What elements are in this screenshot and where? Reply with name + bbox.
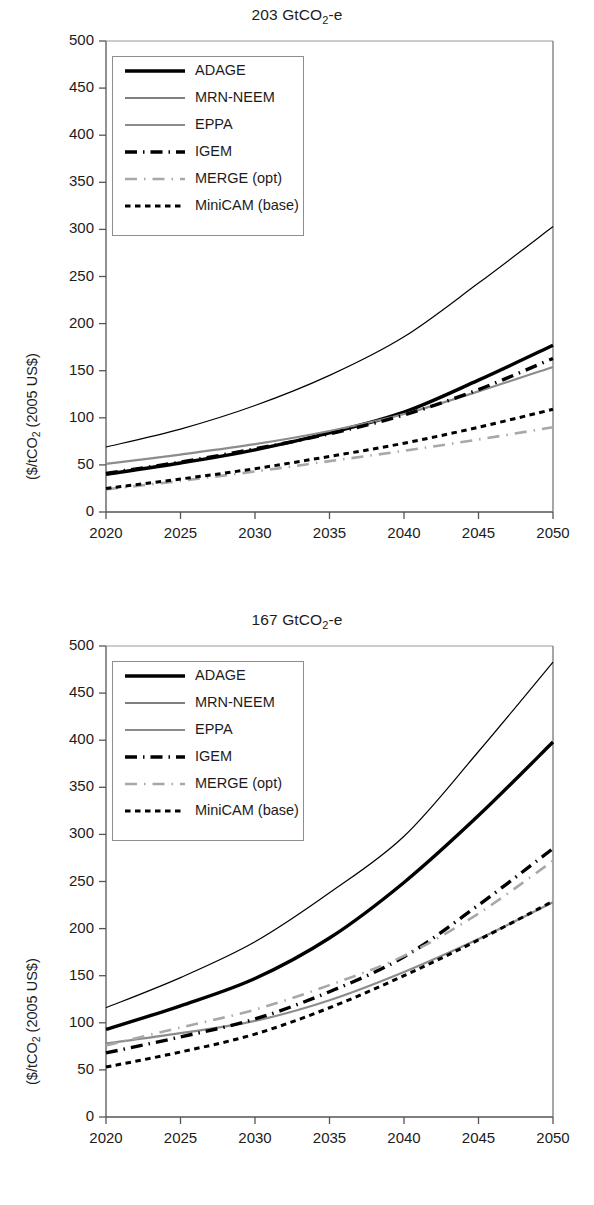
legend-label: ADAGE xyxy=(195,668,246,683)
y-tick-label: 400 xyxy=(38,125,94,142)
y-tick-label: 0 xyxy=(38,502,94,519)
y-tick-label: 200 xyxy=(38,314,94,331)
legend-label: MiniCAM (base) xyxy=(195,198,299,213)
x-tick-label: 2030 xyxy=(225,1129,285,1146)
x-tick-label: 2030 xyxy=(225,524,285,541)
y-tick-label: 350 xyxy=(38,172,94,189)
x-tick-label: 2025 xyxy=(151,1129,211,1146)
legend-label: MERGE (opt) xyxy=(195,776,282,791)
y-tick-label: 450 xyxy=(38,683,94,700)
x-tick-label: 2025 xyxy=(151,524,211,541)
series-line-igem xyxy=(106,849,553,1053)
legend-label: MERGE (opt) xyxy=(195,171,282,186)
legend-167: ADAGEMRN-NEEMEPPAIGEMMERGE (opt)MiniCAM … xyxy=(112,661,304,841)
legend-swatch-icon xyxy=(124,667,186,685)
legend-item-igem[interactable]: IGEM xyxy=(113,743,303,770)
legend-label: ADAGE xyxy=(195,63,246,78)
legend-swatch-icon xyxy=(124,170,186,188)
series-line-merge-opt xyxy=(106,427,553,489)
y-tick-label: 50 xyxy=(38,1060,94,1077)
chart-panel-167: 167 GtCO2-e ($/tCO2 (2005 US$) 050100150… xyxy=(0,605,594,1205)
x-tick-label: 2045 xyxy=(449,524,509,541)
legend-item-eppa[interactable]: EPPA xyxy=(113,111,303,138)
y-tick-label: 500 xyxy=(38,636,94,653)
legend-swatch-icon xyxy=(124,775,186,793)
legend-swatch-icon xyxy=(124,721,186,739)
series-line-merge-opt xyxy=(106,861,553,1046)
legend-swatch-icon xyxy=(124,143,186,161)
legend-label: MiniCAM (base) xyxy=(195,803,299,818)
legend-swatch-icon xyxy=(124,197,186,215)
x-tick-label: 2050 xyxy=(523,524,583,541)
y-tick-label: 150 xyxy=(38,361,94,378)
legend-label: EPPA xyxy=(195,722,233,737)
y-tick-label: 100 xyxy=(38,408,94,425)
legend-item-merge-opt[interactable]: MERGE (opt) xyxy=(113,165,303,192)
legend-swatch-icon xyxy=(124,89,186,107)
x-tick-label: 2040 xyxy=(374,524,434,541)
legend-label: MRN-NEEM xyxy=(195,90,275,105)
y-tick-label: 100 xyxy=(38,1013,94,1030)
legend-item-adage[interactable]: ADAGE xyxy=(113,662,303,689)
x-tick-label: 2050 xyxy=(523,1129,583,1146)
legend-item-merge-opt[interactable]: MERGE (opt) xyxy=(113,770,303,797)
legend-swatch-icon xyxy=(124,694,186,712)
x-tick-label: 2040 xyxy=(374,1129,434,1146)
legend-swatch-icon xyxy=(124,116,186,134)
y-tick-label: 400 xyxy=(38,730,94,747)
series-line-eppa xyxy=(106,367,553,464)
y-tick-label: 500 xyxy=(38,31,94,48)
legend-label: MRN-NEEM xyxy=(195,695,275,710)
legend-item-mrn-neem[interactable]: MRN-NEEM xyxy=(113,84,303,111)
legend-item-eppa[interactable]: EPPA xyxy=(113,716,303,743)
series-line-minicam-base xyxy=(106,409,553,488)
y-tick-label: 250 xyxy=(38,267,94,284)
y-tick-label: 200 xyxy=(38,919,94,936)
y-tick-label: 150 xyxy=(38,966,94,983)
y-tick-label: 300 xyxy=(38,219,94,236)
legend-item-adage[interactable]: ADAGE xyxy=(113,57,303,84)
x-tick-label: 2020 xyxy=(76,1129,136,1146)
legend-label: IGEM xyxy=(195,144,232,159)
legend-item-minicam-base[interactable]: MiniCAM (base) xyxy=(113,192,303,219)
x-tick-label: 2035 xyxy=(300,1129,360,1146)
y-tick-label: 350 xyxy=(38,777,94,794)
legend-swatch-icon xyxy=(124,802,186,820)
y-tick-label: 250 xyxy=(38,872,94,889)
legend-203: ADAGEMRN-NEEMEPPAIGEMMERGE (opt)MiniCAM … xyxy=(112,56,304,236)
legend-label: IGEM xyxy=(195,749,232,764)
series-line-mrn-neem xyxy=(106,227,553,447)
y-tick-label: 450 xyxy=(38,78,94,95)
legend-item-minicam-base[interactable]: MiniCAM (base) xyxy=(113,797,303,824)
legend-swatch-icon xyxy=(124,748,186,766)
legend-label: EPPA xyxy=(195,117,233,132)
legend-item-mrn-neem[interactable]: MRN-NEEM xyxy=(113,689,303,716)
y-tick-label: 50 xyxy=(38,455,94,472)
x-tick-label: 2020 xyxy=(76,524,136,541)
y-tick-label: 300 xyxy=(38,824,94,841)
chart-panel-203: 203 GtCO2-e ($/tCO2 (2005 US$) 050100150… xyxy=(0,0,594,600)
x-tick-label: 2045 xyxy=(449,1129,509,1146)
x-tick-label: 2035 xyxy=(300,524,360,541)
series-line-eppa xyxy=(106,902,553,1043)
legend-item-igem[interactable]: IGEM xyxy=(113,138,303,165)
y-tick-label: 0 xyxy=(38,1107,94,1124)
legend-swatch-icon xyxy=(124,62,186,80)
